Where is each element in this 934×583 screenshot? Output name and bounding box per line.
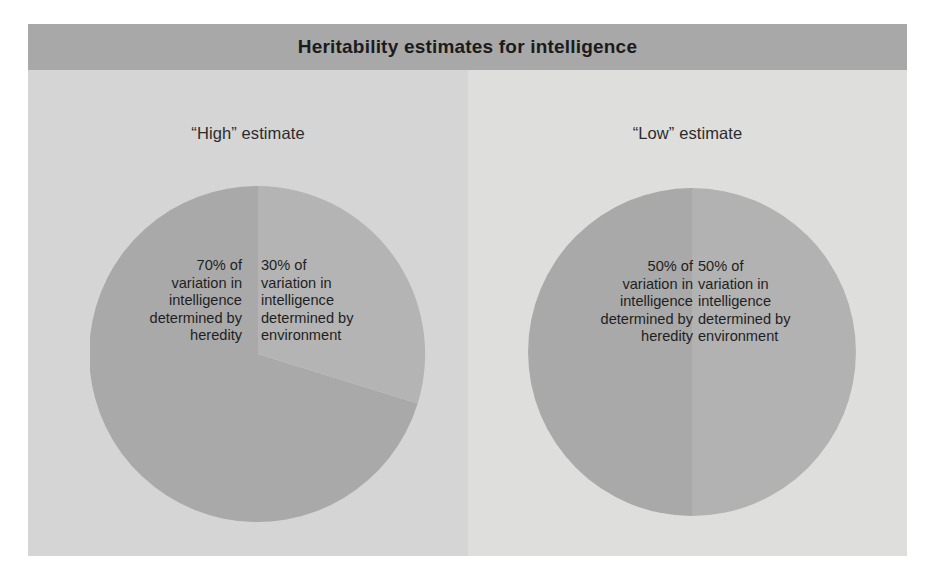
figure-title: Heritability estimates for intelligence xyxy=(298,36,637,58)
panel-title-low-estimate: “Low” estimate xyxy=(468,124,907,143)
pie-label-environment-low: 50% of variation in intelligence determi… xyxy=(698,258,838,346)
pie-slice-environment xyxy=(692,188,856,516)
panel-low-estimate: “Low” estimate 50% of variation in intel… xyxy=(468,70,907,556)
pie-label-heredity-high: 70% of variation in intelligence determi… xyxy=(112,257,242,345)
pie-chart-high-estimate xyxy=(90,186,426,522)
figure-container: Heritability estimates for intelligence … xyxy=(28,24,907,556)
figure-title-band: Heritability estimates for intelligence xyxy=(28,24,907,70)
pie-slice-heredity xyxy=(528,188,692,516)
pie-chart-low-estimate xyxy=(528,188,856,516)
pie-label-heredity-low: 50% of variation in intelligence determi… xyxy=(557,258,693,346)
pie-label-environment-high: 30% of variation in intelligence determi… xyxy=(261,257,401,345)
panels-row: “High” estimate 70% of variation in inte… xyxy=(28,70,907,556)
panel-title-high-estimate: “High” estimate xyxy=(28,124,468,143)
panel-high-estimate: “High” estimate 70% of variation in inte… xyxy=(28,70,468,556)
